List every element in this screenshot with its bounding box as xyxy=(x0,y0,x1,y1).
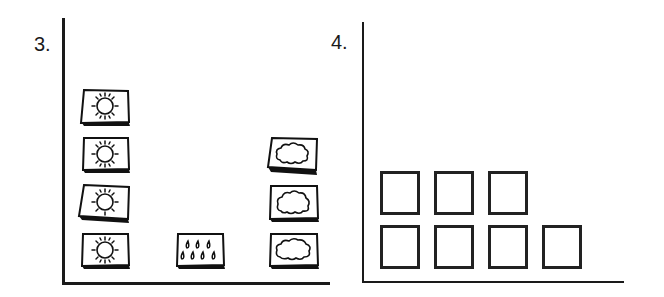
sun-icon xyxy=(78,88,134,128)
cloud-icon xyxy=(264,136,322,178)
empty-box[interactable] xyxy=(542,225,582,269)
empty-box[interactable] xyxy=(488,225,528,269)
chart-3-number: 3. xyxy=(34,33,51,56)
empty-box[interactable] xyxy=(488,171,528,215)
chart-4-y-axis xyxy=(362,22,364,283)
sun-icon xyxy=(76,183,134,225)
sun-icon xyxy=(78,232,134,272)
cloud-icon xyxy=(266,184,322,226)
chart-3-x-axis xyxy=(62,282,330,285)
empty-box[interactable] xyxy=(380,171,420,215)
chart-4-number: 4. xyxy=(331,31,348,54)
sun-icon xyxy=(78,136,134,176)
cloud-icon xyxy=(266,232,322,272)
empty-box[interactable] xyxy=(434,171,474,215)
empty-box[interactable] xyxy=(380,225,420,269)
chart-3-y-axis xyxy=(62,18,65,284)
rain-icon xyxy=(173,232,229,272)
chart-4-x-axis xyxy=(362,281,624,283)
empty-box[interactable] xyxy=(434,225,474,269)
